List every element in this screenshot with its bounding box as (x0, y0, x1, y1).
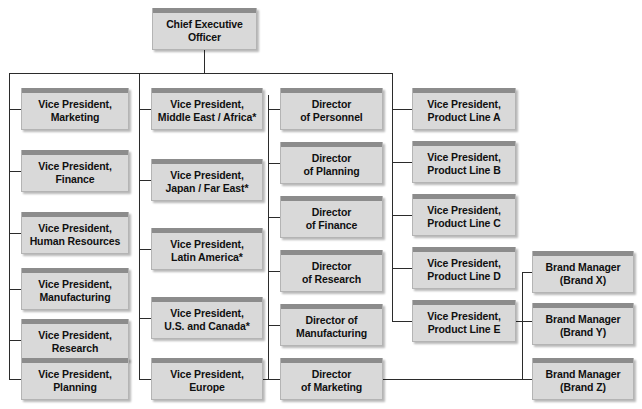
node-vice-president-planning[interactable]: Vice President, Planning (21, 358, 129, 400)
node-label: Vice President, Product Line C (427, 200, 501, 229)
node-vice-president-manufacturing[interactable]: Vice President, Manufacturing (21, 268, 129, 310)
node-label: Vice President, Finance (38, 156, 112, 185)
connector-ceo-stem (204, 50, 205, 74)
node-brand-manager-y[interactable]: Brand Manager (Brand Y) (532, 303, 634, 345)
connector-stub-director-3 (268, 271, 280, 272)
node-label: Vice President, Research (38, 325, 112, 354)
node-vice-president-human-resources[interactable]: Vice President, Human Resources (21, 212, 129, 254)
connector-stub-regional-0 (139, 109, 151, 110)
node-vice-president-finance[interactable]: Vice President, Finance (21, 150, 129, 192)
node-label: Director of Finance (306, 202, 358, 231)
node-vice-president-japan-far-east[interactable]: Vice President, Japan / Far East* (151, 159, 263, 201)
connector-stub-functional-3 (9, 289, 21, 290)
connector-spine-productline (392, 73, 393, 321)
node-director-of-research[interactable]: Director of Research (280, 250, 383, 292)
node-label: Vice President, Europe (170, 364, 244, 393)
node-cap (22, 150, 128, 155)
node-label: Director of Personnel (300, 94, 362, 123)
connector-stub-productline-1 (392, 162, 412, 163)
node-cap (413, 194, 515, 199)
node-cap (22, 88, 128, 93)
node-cap (533, 358, 633, 363)
connector-stub-director-5 (268, 379, 280, 380)
node-label: Vice President, Middle East / Africa* (158, 94, 256, 123)
node-cap (281, 196, 382, 201)
node-cap (152, 228, 262, 233)
node-vice-president-middle-east-africa[interactable]: Vice President, Middle East / Africa* (151, 88, 263, 130)
node-director-of-finance[interactable]: Director of Finance (280, 196, 383, 238)
node-label: Director of Marketing (301, 364, 362, 393)
connector-stub-regional-4 (139, 379, 151, 380)
connector-stub-productline-0 (392, 109, 412, 110)
node-cap (281, 304, 382, 309)
node-cap (533, 251, 633, 256)
node-cap (413, 300, 515, 305)
node-label: Vice President, Human Resources (30, 218, 121, 247)
connector-stub-productline-2 (392, 215, 412, 216)
node-vice-president-product-line-e[interactable]: Vice President, Product Line E (412, 300, 516, 342)
node-vice-president-europe[interactable]: Vice President, Europe (151, 358, 263, 400)
node-cap (152, 88, 262, 93)
node-cap (22, 358, 128, 363)
connector-marketing-to-brands (363, 379, 523, 380)
node-label: Vice President, Product Line A (427, 94, 501, 123)
node-label: Director of Planning (303, 148, 359, 177)
connector-stub-functional-2 (9, 233, 21, 234)
node-label: Vice President, Product Line D (427, 253, 501, 282)
connector-stub-brand-0 (522, 272, 532, 273)
node-label: Vice President, Marketing (38, 94, 112, 123)
connector-stub-functional-0 (9, 109, 21, 110)
node-vice-president-product-line-a[interactable]: Vice President, Product Line A (412, 88, 516, 130)
connector-stub-functional-5 (9, 379, 21, 380)
node-vice-president-product-line-d[interactable]: Vice President, Product Line D (412, 247, 516, 289)
node-label: Brand Manager (Brand X) (545, 257, 620, 286)
node-label: Vice President, Japan / Far East* (166, 165, 249, 194)
node-vice-president-product-line-c[interactable]: Vice President, Product Line C (412, 194, 516, 236)
node-cap (533, 303, 633, 308)
connector-stub-productline-3 (392, 268, 412, 269)
node-vice-president-marketing[interactable]: Vice President, Marketing (21, 88, 129, 130)
node-director-of-personnel[interactable]: Director of Personnel (280, 88, 383, 130)
node-brand-manager-x[interactable]: Brand Manager (Brand X) (532, 251, 634, 293)
node-cap (153, 8, 256, 13)
node-director-of-manufacturing[interactable]: Director of Manufacturing (280, 304, 383, 346)
node-cap (281, 142, 382, 147)
node-cap (281, 88, 382, 93)
node-label: Director of Research (302, 256, 361, 285)
node-label: Director of Manufacturing (296, 310, 367, 339)
node-label: Brand Manager (Brand Y) (545, 309, 620, 338)
node-cap (152, 159, 262, 164)
node-vice-president-us-and-canada[interactable]: Vice President, U.S. and Canada* (151, 297, 263, 339)
node-label: Vice President, Product Line E (427, 306, 501, 335)
node-cap (22, 319, 128, 324)
node-vice-president-research[interactable]: Vice President, Research (21, 319, 129, 361)
connector-spine-functional (9, 73, 10, 379)
node-director-of-planning[interactable]: Director of Planning (280, 142, 383, 184)
node-chief-executive-officer[interactable]: Chief Executive Officer (152, 8, 257, 50)
connector-stub-regional-2 (139, 249, 151, 250)
connector-stub-director-4 (268, 325, 280, 326)
node-cap (413, 247, 515, 252)
connector-stub-productline-4 (392, 321, 412, 322)
connector-stub-director-1 (268, 163, 280, 164)
node-brand-manager-z[interactable]: Brand Manager (Brand Z) (532, 358, 634, 400)
node-vice-president-latin-america[interactable]: Vice President, Latin America* (151, 228, 263, 270)
node-label: Vice President, Manufacturing (38, 274, 112, 303)
node-vice-president-product-line-b[interactable]: Vice President, Product Line B (412, 141, 516, 183)
org-chart: Chief Executive Officer Vice President, … (0, 0, 642, 409)
node-cap (413, 141, 515, 146)
connector-spine-brands (522, 272, 523, 380)
connector-stub-functional-4 (9, 340, 21, 341)
connector-stub-brand-2 (522, 379, 532, 380)
connector-stub-director-2 (268, 217, 280, 218)
node-cap (152, 358, 262, 363)
node-cap (22, 268, 128, 273)
connector-spine-regional (139, 73, 140, 379)
node-label: Chief Executive Officer (166, 14, 243, 43)
node-label: Vice President, Product Line B (427, 147, 501, 176)
connector-stub-regional-1 (139, 180, 151, 181)
node-director-of-marketing[interactable]: Director of Marketing (280, 358, 383, 400)
node-label: Vice President, Planning (38, 364, 112, 393)
connector-spine-directors (268, 95, 269, 380)
node-cap (281, 358, 382, 363)
